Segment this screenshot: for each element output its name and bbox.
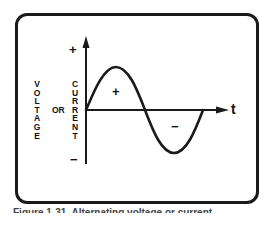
figure-caption: Figure 1-31. Alternating voltage or curr… bbox=[13, 206, 212, 213]
label-letter: E bbox=[32, 132, 42, 141]
negative-half-label: − bbox=[171, 120, 179, 133]
y-axis-positive-marker: + bbox=[69, 43, 77, 56]
y-axis-negative-marker: − bbox=[70, 153, 78, 166]
y-axis-arrow-icon bbox=[83, 36, 90, 48]
label-letter: T bbox=[70, 132, 80, 141]
voltage-label: VOLTAGE bbox=[32, 80, 42, 140]
positive-half-label: + bbox=[112, 85, 120, 98]
current-label: CURRENT bbox=[70, 80, 80, 140]
x-axis-label: t bbox=[231, 101, 236, 117]
or-label: OR bbox=[52, 105, 65, 115]
x-axis-arrow-icon bbox=[216, 107, 229, 114]
